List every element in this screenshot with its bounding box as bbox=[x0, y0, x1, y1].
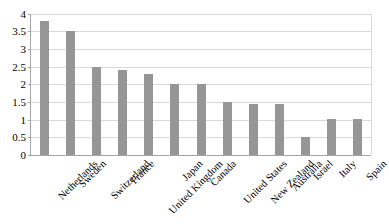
y-axis-tick-label: 4 bbox=[21, 8, 27, 20]
x-axis-label-slot: Japan bbox=[162, 156, 188, 224]
bar-slot bbox=[83, 14, 109, 156]
bar[interactable] bbox=[275, 104, 284, 155]
x-axis-label-slot: Israel bbox=[293, 156, 319, 224]
x-axis-label-slot: Italy bbox=[319, 156, 345, 224]
x-axis-label-slot: New Zealand bbox=[241, 156, 267, 224]
y-axis-tick-label: 1.5 bbox=[12, 96, 26, 108]
x-axis-label-slot: Switzerland bbox=[83, 156, 109, 224]
plot-area bbox=[30, 14, 372, 156]
y-axis-tick-label: 0.5 bbox=[12, 131, 26, 143]
x-axis-label-slot: Sweden bbox=[56, 156, 82, 224]
bar-slot bbox=[31, 14, 57, 156]
y-axis-tick-label: 3 bbox=[21, 43, 27, 55]
y-axis-tick-labels: 43.532.521.510.50 bbox=[0, 0, 26, 160]
y-axis-tick-label: 2.5 bbox=[12, 61, 26, 73]
bar[interactable] bbox=[249, 104, 258, 155]
bar[interactable] bbox=[92, 67, 101, 155]
x-axis-label-slot: Canada bbox=[188, 156, 214, 224]
bar-slot bbox=[319, 14, 345, 156]
x-axis-label-slot: Australia bbox=[267, 156, 293, 224]
bar[interactable] bbox=[66, 31, 75, 155]
bar-slot bbox=[293, 14, 319, 156]
x-axis-tick-label: Spain bbox=[364, 158, 389, 183]
bar-slot bbox=[57, 14, 83, 156]
x-axis-label-slot: Spain bbox=[346, 156, 372, 224]
x-axis-label-slot: Netherlands bbox=[30, 156, 56, 224]
bar[interactable] bbox=[170, 84, 179, 155]
bar[interactable] bbox=[301, 137, 310, 155]
bar[interactable] bbox=[118, 70, 127, 155]
bar[interactable] bbox=[40, 21, 49, 155]
x-axis-label-slot: United Kingdom bbox=[135, 156, 161, 224]
bar[interactable] bbox=[223, 102, 232, 155]
x-axis-label-slot: United States bbox=[214, 156, 240, 224]
bar[interactable] bbox=[144, 74, 153, 155]
x-axis-label-slot: France bbox=[109, 156, 135, 224]
y-axis-tick-label: 3.5 bbox=[12, 25, 26, 37]
bar-slot bbox=[345, 14, 371, 156]
bar[interactable] bbox=[327, 119, 336, 155]
bar[interactable] bbox=[197, 84, 206, 155]
bar-slot bbox=[214, 14, 240, 156]
bar-series bbox=[31, 14, 371, 156]
bar[interactable] bbox=[353, 119, 362, 155]
x-axis-tick-labels: NetherlandsSwedenSwitzerlandFranceUnited… bbox=[30, 156, 372, 224]
bar-slot bbox=[266, 14, 292, 156]
bar-slot bbox=[188, 14, 214, 156]
bar-slot bbox=[162, 14, 188, 156]
y-axis-tick-label: 1 bbox=[21, 114, 27, 126]
bar-slot bbox=[136, 14, 162, 156]
y-axis-tick-label: 0 bbox=[21, 149, 27, 161]
bar-slot bbox=[240, 14, 266, 156]
bar-slot bbox=[109, 14, 135, 156]
y-axis-tick-label: 2 bbox=[21, 78, 27, 90]
